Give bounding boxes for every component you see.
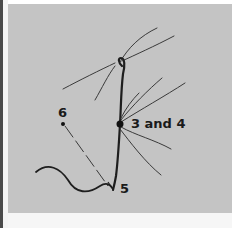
node-3-and-4 [117, 121, 124, 128]
label-6: 6 [58, 106, 67, 119]
upper-fan-lines [120, 28, 174, 62]
diagram-drawing [0, 0, 232, 228]
wavy-curve [36, 167, 113, 191]
point-6-dot [61, 122, 65, 126]
upper-left-lines [63, 63, 115, 100]
label-5: 5 [120, 182, 129, 195]
label-3-and-4: 3 and 4 [131, 117, 185, 130]
dashed-link-6-to-5 [65, 126, 108, 186]
